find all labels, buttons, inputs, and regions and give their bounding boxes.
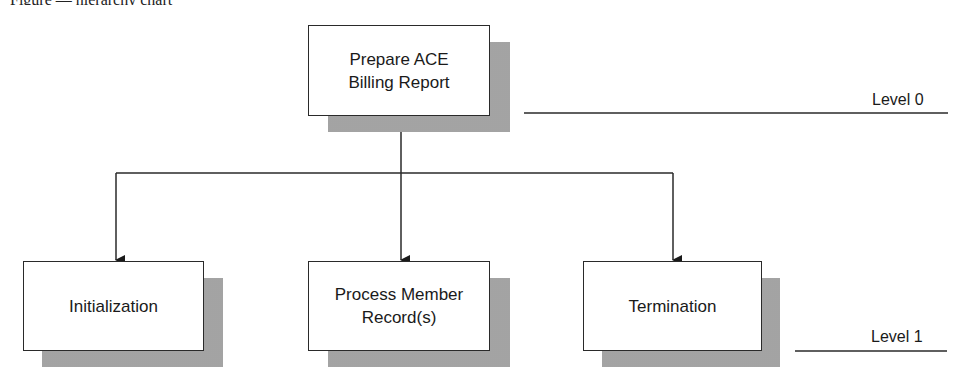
- child-box-initialization[interactable]: Initialization: [23, 261, 204, 351]
- initialization-label: Initialization: [69, 295, 158, 318]
- root-box-prepare-ace-billing-report[interactable]: Prepare ACE Billing Report: [308, 25, 490, 116]
- level-1-label: Level 1: [871, 328, 923, 346]
- termination-label: Termination: [629, 295, 717, 318]
- child-box-termination[interactable]: Termination: [583, 261, 762, 351]
- level-0-label: Level 0: [872, 91, 924, 109]
- root-box-line-2: Billing Report: [348, 71, 449, 94]
- child-box-process-member-records[interactable]: Process Member Record(s): [308, 261, 490, 351]
- process-member-records-line-2: Record(s): [335, 306, 463, 329]
- process-member-records-line-1: Process Member: [335, 283, 463, 306]
- root-box-line-1: Prepare ACE: [348, 48, 449, 71]
